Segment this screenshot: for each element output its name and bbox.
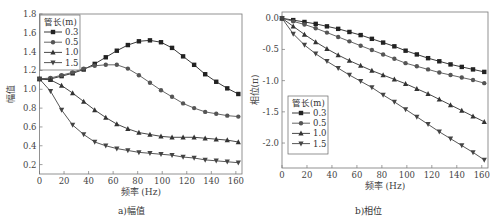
- circle-marker: [437, 70, 441, 74]
- triangle-up-marker: [482, 119, 487, 124]
- legend: 管长(m)0.30.51.01.5: [288, 96, 328, 154]
- circle-marker: [126, 66, 130, 70]
- x-axis-label: 频率 (Hz): [121, 186, 161, 197]
- square-marker: [203, 72, 207, 76]
- triangle-down-marker: [369, 85, 374, 90]
- circle-marker: [70, 70, 74, 74]
- y-tick-label: 1.8: [23, 9, 37, 19]
- y-tick-label: 0.8: [23, 103, 37, 113]
- phase-chart: 0204060801001201401600.0-0.5-1.0-1.5-2.0…: [249, 12, 490, 191]
- caption-phase: b)相位: [355, 204, 382, 217]
- circle-marker: [299, 121, 303, 125]
- circle-marker: [471, 78, 475, 82]
- y-tick-label: 1.4: [23, 47, 37, 57]
- square-marker: [148, 38, 152, 42]
- y-axis-label: 幅值: [5, 85, 16, 103]
- triangle-up-marker: [425, 91, 430, 96]
- circle-marker: [403, 61, 407, 65]
- legend-entry: 1.5: [65, 58, 79, 68]
- square-marker: [192, 63, 196, 67]
- triangle-up-marker: [92, 107, 97, 112]
- square-marker: [104, 55, 108, 59]
- series-0-3: [280, 16, 487, 74]
- triangle-up-marker: [437, 97, 442, 102]
- x-tick-label: 140: [449, 170, 465, 180]
- square-marker: [236, 92, 240, 96]
- series-0-5: [37, 63, 240, 119]
- legend-entry: 1.0: [65, 47, 79, 57]
- circle-marker: [93, 64, 97, 68]
- triangle-up-marker: [470, 113, 475, 118]
- triangle-down-marker: [324, 59, 329, 64]
- triangle-down-marker: [403, 107, 408, 112]
- triangle-down-marker: [81, 132, 86, 137]
- triangle-down-marker: [470, 150, 475, 155]
- circle-marker: [358, 43, 362, 47]
- square-marker: [137, 39, 141, 43]
- circle-marker: [392, 57, 396, 61]
- circle-marker: [148, 81, 152, 85]
- square-marker: [471, 67, 475, 71]
- circle-marker: [370, 48, 374, 52]
- circle-marker: [426, 67, 430, 71]
- square-marker: [347, 30, 351, 34]
- triangle-down-marker: [459, 143, 464, 148]
- circle-marker: [181, 101, 185, 105]
- circle-marker: [460, 75, 464, 79]
- triangle-up-marker: [81, 99, 86, 104]
- y-tick-label: -2.0: [263, 138, 279, 148]
- triangle-down-marker: [414, 115, 419, 120]
- series-line: [282, 18, 484, 72]
- x-tick-label: 160: [474, 170, 490, 180]
- x-tick-label: 80: [376, 170, 387, 180]
- triangle-up-marker: [459, 108, 464, 113]
- x-tick-label: 80: [132, 176, 143, 186]
- triangle-up-marker: [347, 58, 352, 63]
- x-tick-label: 0: [37, 176, 42, 186]
- square-marker: [448, 62, 452, 66]
- triangle-down-marker: [392, 100, 397, 105]
- circle-marker: [81, 66, 85, 70]
- triangle-up-marker: [291, 24, 296, 29]
- triangle-down-marker: [482, 158, 487, 163]
- circle-marker: [137, 73, 141, 77]
- y-tick-label: 1.0: [23, 84, 37, 94]
- x-tick-label: 0: [279, 170, 284, 180]
- legend-entry: 1.5: [313, 139, 327, 149]
- square-marker: [126, 43, 130, 47]
- triangle-down-marker: [313, 52, 318, 57]
- x-tick-label: 20: [59, 176, 70, 186]
- square-marker: [426, 56, 430, 60]
- x-tick-label: 140: [203, 176, 219, 186]
- figure-canvas: 0204060801001201401600.20.40.60.81.01.21…: [0, 0, 497, 223]
- y-tick-label: 0.6: [23, 122, 37, 132]
- square-marker: [314, 22, 318, 26]
- square-marker: [299, 111, 303, 115]
- triangle-up-marker: [70, 90, 75, 95]
- circle-marker: [236, 114, 240, 118]
- x-tick-label: 60: [108, 176, 119, 186]
- square-marker: [181, 54, 185, 58]
- triangle-up-marker: [114, 121, 119, 126]
- triangle-up-marker: [313, 39, 318, 44]
- circle-marker: [291, 19, 295, 23]
- circle-marker: [203, 110, 207, 114]
- legend-entry: 0.5: [313, 118, 327, 128]
- triangle-up-marker: [103, 115, 108, 120]
- circle-marker: [314, 26, 318, 30]
- circle-marker: [482, 81, 486, 85]
- triangle-down-marker: [347, 73, 352, 78]
- square-marker: [336, 27, 340, 31]
- square-marker: [214, 80, 218, 84]
- square-marker: [370, 37, 374, 41]
- triangle-up-marker: [302, 32, 307, 37]
- triangle-down-marker: [437, 130, 442, 135]
- series-line: [40, 79, 239, 163]
- square-marker: [115, 49, 119, 53]
- x-tick-label: 40: [83, 176, 94, 186]
- x-tick-label: 60: [351, 170, 362, 180]
- circle-marker: [104, 63, 108, 67]
- triangle-down-marker: [358, 79, 363, 84]
- circle-marker: [192, 106, 196, 110]
- circle-marker: [170, 95, 174, 99]
